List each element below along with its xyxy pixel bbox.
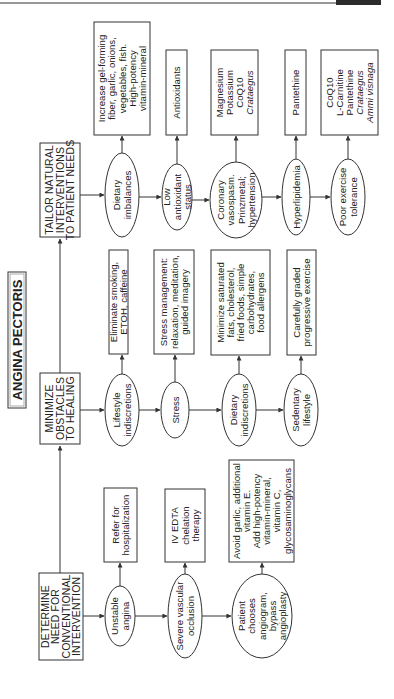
intervention-text: glycosaminoglycans (282, 468, 293, 554)
column-header-text: TO HEALING (64, 376, 76, 440)
title-box: ANGINA PECTORIS (8, 272, 26, 408)
intervention-text: guided imagery (179, 269, 190, 335)
condition-label: tolerance (348, 177, 359, 216)
intervention-text: Crataegus (244, 70, 255, 114)
angina-pectoris-flowchart: ANGINA PECTORIS TAILOR NATURALINTERVENTI… (0, 0, 394, 699)
intervention-text: therapy (190, 509, 201, 541)
intervention-text: progressive exercise (301, 259, 312, 347)
intervention-text: Ammi visnaga (364, 62, 375, 123)
intervention-text: Antioxidants (171, 66, 182, 118)
condition-label: occlusion (185, 596, 196, 636)
page-header-bar (0, 0, 381, 5)
condition-label: angina (120, 601, 131, 630)
condition-label: indiscretions (239, 383, 250, 437)
column-header-text: INTERVENTION (70, 577, 82, 656)
condition-label: angioplasty (277, 592, 288, 641)
intervention-text: food allergens (255, 272, 266, 332)
intervention-text: vitamin-mineral (137, 46, 148, 111)
intervention-text: ETOH, caffeine (118, 269, 129, 334)
column-header-text: TO PATIENT NEEDS (64, 140, 76, 241)
condition-label: indiscretions (122, 383, 133, 437)
diagram-title: ANGINA PECTORIS (10, 279, 25, 400)
intervention-text: hospitalization (120, 495, 131, 556)
condition-label: Stress (170, 396, 181, 423)
condition-label: imbalances (122, 171, 133, 220)
condition-label: hypertension (246, 173, 257, 228)
column-tailor: TAILOR NATURALINTERVENTIONSTO PATIENT NE… (40, 22, 378, 240)
condition-label: Hyperlipidemia (291, 165, 302, 229)
intervention-text: Pantethine (290, 70, 301, 116)
condition-label: lifestyle (301, 394, 312, 426)
condition-label: status (182, 184, 193, 210)
